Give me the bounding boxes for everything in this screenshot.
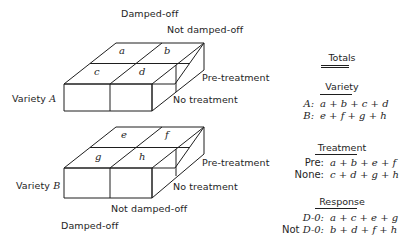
label-variety-a: Variety A [12, 93, 56, 104]
cell-d: d [139, 66, 145, 77]
totals-row-pre: Pre:a + b + e + f [290, 157, 396, 168]
section-rule-response [315, 208, 357, 209]
cell-h: h [139, 151, 145, 162]
totals-row-d0: D-0:a + c + e + g [290, 212, 398, 223]
row-expression: a + b + c + d [320, 98, 389, 109]
cell-c: c [94, 66, 100, 77]
row-expression: a + c + e + g [330, 212, 398, 223]
cell-g: g [95, 151, 101, 162]
label-no-treatment-top: No treatment [173, 94, 238, 105]
label-variety-b: Variety B [16, 180, 60, 191]
label-damped-off-bottom: Damped-off [61, 220, 118, 231]
row-expression: a + b + e + f [330, 157, 396, 168]
row-key: A: [290, 98, 314, 109]
label-no-treatment-bottom: No treatment [173, 181, 238, 192]
row-key: D-0: [290, 212, 324, 223]
cell-f: f [165, 129, 169, 140]
totals-rule-2 [321, 67, 349, 68]
row-key: None: [290, 169, 324, 180]
row-expression: b + d + f + h [330, 224, 397, 235]
row-key: Pre: [290, 157, 324, 168]
cell-e: e [121, 129, 127, 140]
row-key: Not D-0: [280, 224, 324, 235]
totals-title: Totals [290, 52, 394, 63]
variety-a-letter: A [49, 93, 56, 104]
totals-rule-1 [321, 65, 349, 66]
totals-row-none: None:c + d + g + h [290, 169, 399, 180]
label-damped-off-top: Damped-off [121, 8, 178, 19]
label-not-damped-off-top: Not damped-off [167, 24, 243, 35]
cell-b: b [164, 45, 170, 56]
section-heading-treatment: Treatment [290, 142, 394, 153]
box-a-front-face [64, 84, 152, 111]
label-not-damped-off-bottom: Not damped-off [111, 203, 187, 214]
section-rule-treatment [315, 154, 357, 155]
section-heading-response: Response [290, 196, 394, 207]
row-key: B: [290, 110, 314, 121]
section-rule-variety [320, 94, 352, 95]
row-expression: c + d + g + h [330, 169, 399, 180]
variety-b-letter: B [53, 180, 60, 191]
cell-a: a [119, 45, 125, 56]
totals-row-not-d0: Not D-0:b + d + f + h [280, 224, 397, 235]
totals-row-variety-a: A:a + b + c + d [290, 98, 389, 109]
label-pre-treatment-bottom: Pre-treatment [202, 157, 270, 168]
box-b-front-face [64, 168, 152, 198]
label-pre-treatment-top: Pre-treatment [202, 72, 270, 83]
section-heading-variety: Variety [290, 81, 394, 92]
totals-row-variety-b: B:e + f + g + h [290, 110, 387, 121]
row-expression: e + f + g + h [320, 110, 387, 121]
